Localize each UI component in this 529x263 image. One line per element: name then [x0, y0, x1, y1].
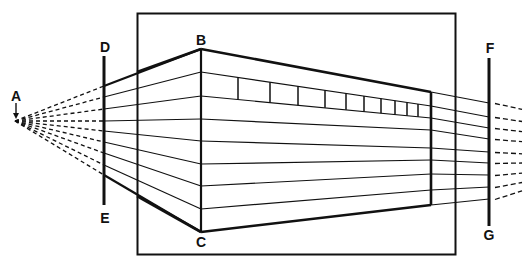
- horizontal-course-line: [201, 119, 431, 130]
- ray-segment: [104, 131, 201, 141]
- horizontal-course-line: [201, 72, 431, 106]
- horizontal-course-line: [201, 174, 431, 186]
- extension-line: [431, 118, 489, 128]
- label-A: A: [11, 88, 21, 104]
- ray-segment: [104, 142, 201, 164]
- building-base-edge: [201, 205, 431, 232]
- dashed-ray: [495, 183, 522, 188]
- extension-line: [431, 199, 489, 205]
- label-D: D: [100, 39, 110, 55]
- dashed-ray: [495, 191, 522, 200]
- label-B: B: [196, 32, 206, 48]
- dashed-ray: [495, 173, 522, 175]
- dashed-rays-left: [15, 86, 104, 175]
- dashed-ray: [15, 121, 104, 165]
- building-top-left-edge: [137, 49, 201, 72]
- dashed-ray: [15, 109, 104, 121]
- extension-line: [431, 174, 489, 175]
- horizontal-course-line: [201, 96, 431, 118]
- ray-segment: [104, 153, 201, 186]
- label-C: C: [196, 234, 206, 250]
- dashed-ray: [15, 97, 104, 121]
- extension-line: [431, 130, 489, 139]
- ray-segment: [104, 72, 201, 97]
- ray-segment: [104, 119, 201, 121]
- label-G: G: [484, 227, 495, 243]
- dashed-ray: [495, 140, 522, 142]
- extension-line: [431, 160, 489, 163]
- label-F: F: [486, 40, 495, 56]
- picture-frame: [138, 14, 456, 255]
- dashed-ray: [15, 121, 104, 142]
- building-roof-edge: [201, 49, 431, 92]
- dashed-ray: [495, 129, 522, 132]
- extension-line: [431, 148, 489, 152]
- extension-line: [431, 92, 489, 103]
- horizontal-course-line: [201, 141, 431, 148]
- dashed-ray: [495, 163, 522, 164]
- horizontal-course-line: [201, 160, 431, 164]
- label-E: E: [100, 210, 109, 226]
- dashed-ray: [495, 153, 522, 154]
- extension-line: [431, 187, 489, 190]
- dashed-rays-right: [495, 104, 522, 200]
- dashed-ray: [495, 118, 522, 122]
- horizontal-course-line: [201, 190, 431, 209]
- arrow-down-icon: [13, 113, 19, 119]
- perspective-diagram: A B C D E F G: [0, 0, 529, 263]
- dashed-ray: [495, 104, 522, 110]
- dashed-ray: [15, 86, 104, 121]
- extension-line: [431, 106, 489, 117]
- building-bottom-left-edge: [137, 196, 201, 232]
- ray-segment: [104, 96, 201, 109]
